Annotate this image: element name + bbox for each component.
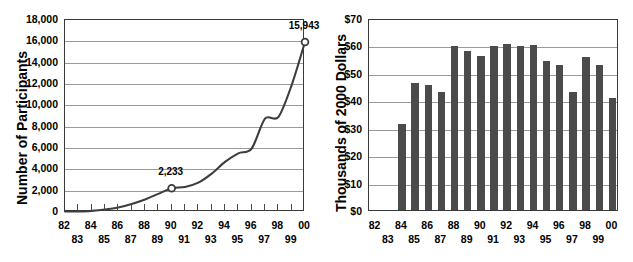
x-axis-tick-label: 96 bbox=[553, 219, 565, 231]
y-axis-tick-label: 2,000 bbox=[32, 184, 58, 196]
x-axis-tick-label: 91 bbox=[178, 233, 190, 245]
x-axis-tick-label: 86 bbox=[421, 219, 433, 231]
data-point-label: 15,943 bbox=[289, 20, 320, 31]
x-axis-tick bbox=[104, 204, 105, 211]
x-axis-tick bbox=[251, 204, 252, 211]
x-axis-tick-label: 92 bbox=[500, 219, 512, 231]
y-axis-tick-label: 10,000 bbox=[26, 98, 58, 110]
x-axis-tick bbox=[184, 204, 185, 211]
x-axis-tick-label: 84 bbox=[85, 219, 97, 231]
x-axis-tick-label: 88 bbox=[138, 219, 150, 231]
data-point-marker bbox=[168, 185, 175, 192]
x-axis-tick-label: 99 bbox=[592, 233, 604, 245]
y-axis-tick-label: $40 bbox=[344, 95, 362, 107]
bar bbox=[503, 44, 510, 210]
y-axis-tick-label: 4,000 bbox=[32, 162, 58, 174]
x-axis-tick bbox=[224, 204, 225, 211]
x-axis-tick-label: 89 bbox=[151, 233, 163, 245]
x-axis-tick bbox=[144, 204, 145, 211]
bar bbox=[425, 85, 432, 210]
y-axis-tick-label: $10 bbox=[344, 178, 362, 190]
participants-line-chart: Number of Participants 18,00016,00014,00… bbox=[0, 0, 320, 262]
y-axis-tick-label: 6,000 bbox=[32, 141, 58, 153]
x-axis-tick-label: 87 bbox=[125, 233, 137, 245]
x-axis-tick-label: 98 bbox=[579, 219, 591, 231]
x-axis-tick-label: 86 bbox=[111, 219, 123, 231]
y-axis-tick-label: 14,000 bbox=[26, 56, 58, 68]
x-axis-tick-label: 89 bbox=[461, 233, 473, 245]
x-axis-tick-label: 82 bbox=[369, 219, 381, 231]
x-axis-tick-label: 90 bbox=[165, 219, 177, 231]
x-axis-tick-label: 94 bbox=[218, 219, 230, 231]
y-axis-tick-label: $0 bbox=[350, 205, 362, 217]
x-axis-tick-label: 96 bbox=[245, 219, 257, 231]
y-axis-tick-label: $70 bbox=[344, 13, 362, 25]
bar bbox=[582, 57, 589, 210]
x-axis-tick-label: 93 bbox=[205, 233, 217, 245]
plot-area-line bbox=[64, 19, 304, 211]
x-axis-tick bbox=[237, 204, 238, 211]
x-axis-tick-label: 88 bbox=[448, 219, 460, 231]
x-axis-tick bbox=[157, 204, 158, 211]
bar bbox=[543, 61, 550, 210]
figure-root: Number of Participants 18,00016,00014,00… bbox=[0, 0, 633, 262]
bar bbox=[609, 98, 616, 210]
x-axis-tick bbox=[291, 204, 292, 211]
bar bbox=[451, 46, 458, 210]
bar bbox=[569, 92, 576, 210]
bar bbox=[530, 45, 537, 210]
x-axis-tick bbox=[117, 204, 118, 211]
bar bbox=[596, 65, 603, 210]
x-axis-tick-label: 90 bbox=[474, 219, 486, 231]
line-path bbox=[65, 42, 305, 212]
x-axis-tick bbox=[131, 204, 132, 211]
bar bbox=[411, 83, 418, 210]
x-axis-tick-label: 83 bbox=[382, 233, 394, 245]
x-axis-tick-label: 97 bbox=[566, 233, 578, 245]
participants-line-series bbox=[65, 20, 305, 212]
x-axis-tick-label: 85 bbox=[408, 233, 420, 245]
bar bbox=[517, 46, 524, 210]
x-axis-tick bbox=[264, 204, 265, 211]
x-axis-tick-label: 97 bbox=[258, 233, 270, 245]
y-axis-tick-label: $60 bbox=[344, 40, 362, 52]
x-axis-tick-label: 93 bbox=[513, 233, 525, 245]
x-axis-tick-label: 00 bbox=[606, 219, 618, 231]
dollars-bar-chart: Thousands of 2000 Dollars $70$60$50$40$3… bbox=[320, 0, 633, 262]
x-axis-tick-label: 95 bbox=[540, 233, 552, 245]
bar bbox=[556, 65, 563, 210]
x-axis-tick bbox=[91, 204, 92, 211]
y-axis-tick-label: 18,000 bbox=[26, 13, 58, 25]
data-point-marker bbox=[302, 39, 309, 46]
x-axis-tick bbox=[77, 204, 78, 211]
y-axis-tick-label: $20 bbox=[344, 150, 362, 162]
x-axis-tick-label: 84 bbox=[395, 219, 407, 231]
y-axis-title-participants: Number of Participants bbox=[14, 51, 30, 205]
x-axis-tick-label: 00 bbox=[298, 219, 310, 231]
bar bbox=[490, 46, 497, 210]
plot-area-bars bbox=[368, 19, 618, 211]
bar bbox=[477, 56, 484, 210]
x-axis-tick-label: 83 bbox=[71, 233, 83, 245]
y-axis-tick-label: $30 bbox=[344, 123, 362, 135]
x-axis-tick-label: 92 bbox=[191, 219, 203, 231]
x-axis-tick-label: 87 bbox=[435, 233, 447, 245]
x-axis-tick bbox=[197, 204, 198, 211]
bar bbox=[398, 124, 405, 210]
y-axis-tick-label: 16,000 bbox=[26, 34, 58, 46]
x-axis-tick-label: 94 bbox=[527, 219, 539, 231]
bar bbox=[438, 92, 445, 210]
x-axis-tick-label: 99 bbox=[285, 233, 297, 245]
x-axis-tick bbox=[171, 204, 172, 211]
y-axis-tick-label: 8,000 bbox=[32, 120, 58, 132]
x-axis-tick bbox=[277, 204, 278, 211]
x-axis-tick-label: 91 bbox=[487, 233, 499, 245]
x-axis-tick-label: 82 bbox=[58, 219, 70, 231]
y-axis-tick-label: $50 bbox=[344, 68, 362, 80]
x-axis-tick-label: 85 bbox=[98, 233, 110, 245]
y-axis-tick-label: 0 bbox=[52, 205, 58, 217]
data-point-label: 2,233 bbox=[158, 166, 183, 177]
x-axis-tick-label: 98 bbox=[271, 219, 283, 231]
bar bbox=[464, 51, 471, 210]
y-axis-tick-label: 12,000 bbox=[26, 77, 58, 89]
